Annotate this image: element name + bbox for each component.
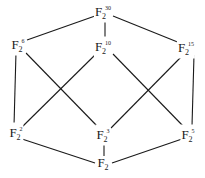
lattice-edges: [0, 0, 205, 178]
node-sub: 2: [105, 163, 109, 172]
node-f-2: F2: [96, 156, 109, 174]
edge-6-3: [26, 53, 99, 128]
node-exp: 15: [188, 41, 194, 47]
edge-10-2: [22, 54, 96, 127]
node-sub: 2: [189, 135, 193, 144]
edge-15-3: [111, 55, 183, 128]
edge-10-5: [113, 54, 185, 128]
node-exp: 10: [105, 40, 111, 46]
node-sub: 2: [19, 45, 23, 54]
node-sub: 2: [185, 48, 189, 57]
node-f-2-5: F25: [180, 125, 195, 146]
node-exp: 5: [192, 128, 195, 134]
node-f-2-30: F230: [94, 2, 112, 23]
node-sub: 2: [17, 133, 21, 142]
node-f-2-15: F215: [177, 38, 195, 59]
node-exp: 6: [22, 38, 25, 44]
node-f-2-6: F26: [10, 35, 25, 56]
node-sub: 2: [104, 135, 108, 144]
edge-15-5: [192, 55, 194, 126]
node-f-2-3: F23: [95, 125, 110, 146]
node-sub: 2: [102, 47, 106, 56]
node-exp: 30: [105, 5, 111, 11]
node-exp: 3: [107, 128, 110, 134]
edge-5-1: [112, 139, 182, 163]
edge-2-1: [22, 139, 95, 163]
node-sub: 2: [102, 12, 106, 21]
node-exp: 2: [20, 126, 23, 132]
edge-6-2: [14, 52, 16, 126]
edge-30-6: [27, 16, 95, 40]
node-f-2-10: F210: [94, 37, 112, 58]
node-f-2-2: F22: [8, 123, 23, 144]
edge-30-15: [113, 16, 180, 43]
